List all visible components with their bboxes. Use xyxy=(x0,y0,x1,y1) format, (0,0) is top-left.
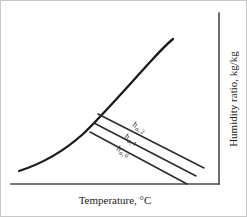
y-axis-label: Humidity ratio, kg/kg xyxy=(227,51,239,147)
enthalpy-line-ha2 xyxy=(98,114,204,168)
psychrometric-chart-figure: ha, 2 ha, 1 ha, 0 Temperature, °C Humidi… xyxy=(0,0,247,217)
svg-text:ha, 0: ha, 0 xyxy=(114,143,132,160)
enthalpy-label-ha0-sub: a, 0 xyxy=(118,149,130,160)
enthalpy-label-ha2: ha, 2 xyxy=(130,119,147,135)
enthalpy-line-ha1 xyxy=(94,123,196,176)
svg-text:ha, 2: ha, 2 xyxy=(130,119,147,135)
enthalpy-line-ha0 xyxy=(90,132,187,184)
x-axis-label: Temperature, °C xyxy=(79,194,152,206)
saturation-curve xyxy=(19,39,173,171)
enthalpy-label-ha0: ha, 0 xyxy=(114,143,132,160)
chart-canvas: ha, 2 ha, 1 ha, 0 Temperature, °C Humidi… xyxy=(1,1,247,217)
